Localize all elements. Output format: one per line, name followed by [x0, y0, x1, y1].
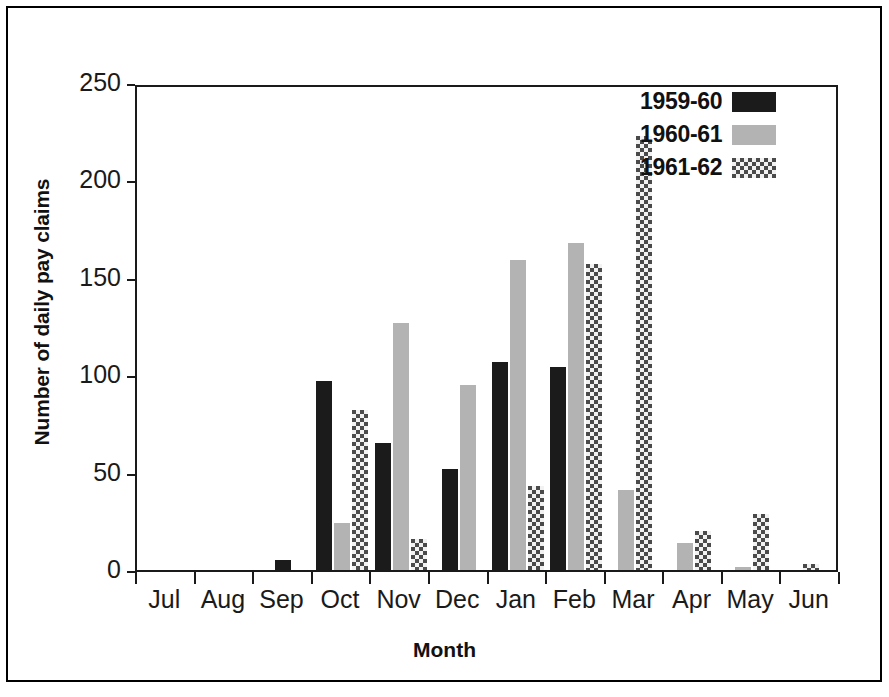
- bar: [334, 523, 350, 570]
- figure-root: Number of daily pay claims 0501001502002…: [0, 0, 889, 697]
- bar: [636, 136, 652, 570]
- y-axis-title: Number of daily pay claims: [30, 102, 54, 522]
- x-axis-tick-label: Mar: [604, 586, 662, 612]
- legend-swatch-1959-60-icon: [732, 92, 776, 112]
- y-axis-tick-label: 200: [55, 167, 121, 192]
- legend-item: 1960-61: [640, 121, 776, 148]
- bar: [316, 381, 332, 570]
- x-axis-tick: [779, 572, 781, 584]
- x-axis-tick-label: Jun: [780, 586, 838, 612]
- x-axis-tick: [545, 572, 547, 584]
- bar: [735, 567, 751, 570]
- x-axis-tick-label: Jul: [135, 586, 193, 612]
- y-axis-tick-label: 250: [55, 70, 121, 95]
- y-axis-tick: [127, 376, 135, 378]
- bar-cluster: [781, 87, 840, 570]
- bar: [677, 543, 693, 570]
- bar-cluster: [371, 87, 430, 570]
- bar: [510, 260, 526, 570]
- legend-swatch-1960-61-icon: [732, 125, 776, 145]
- y-axis-tick: [127, 571, 135, 573]
- x-axis-tick-label: Jan: [487, 586, 545, 612]
- bar-cluster: [254, 87, 313, 570]
- y-axis-tick: [127, 181, 135, 183]
- bar: [492, 362, 508, 570]
- x-axis-tick: [311, 572, 313, 584]
- bar: [375, 443, 391, 570]
- y-axis-tick: [127, 84, 135, 86]
- bar-cluster: [430, 87, 489, 570]
- x-axis-tick: [135, 572, 137, 584]
- x-axis-tick: [369, 572, 371, 584]
- legend-swatch-1961-62-icon: [732, 158, 776, 178]
- bar: [550, 367, 566, 570]
- y-axis-tick: [127, 279, 135, 281]
- bar: [695, 531, 711, 570]
- legend: 1959-60 1960-61 1961-62: [640, 88, 776, 181]
- y-axis-tick: [127, 474, 135, 476]
- x-axis-tick-label: Apr: [663, 586, 721, 612]
- y-axis-tick-label: 0: [55, 557, 121, 582]
- x-axis-tick: [721, 572, 723, 584]
- x-axis-tick: [194, 572, 196, 584]
- bar: [618, 490, 634, 570]
- x-axis-tick: [662, 572, 664, 584]
- bar: [753, 514, 769, 570]
- bar: [393, 323, 409, 570]
- bar-cluster: [547, 87, 606, 570]
- legend-label: 1961-62: [640, 154, 722, 181]
- x-axis-tick: [604, 572, 606, 584]
- x-axis-tick-label: Nov: [370, 586, 428, 612]
- legend-item: 1959-60: [640, 88, 776, 115]
- bar: [411, 539, 427, 570]
- y-axis-tick-label: 150: [55, 265, 121, 290]
- x-axis-tick: [428, 572, 430, 584]
- y-axis-tick-label: 50: [55, 460, 121, 485]
- bar: [352, 410, 368, 570]
- x-axis-tick-label: Sep: [252, 586, 310, 612]
- legend-item: 1961-62: [640, 154, 776, 181]
- legend-label: 1959-60: [640, 88, 722, 115]
- y-axis-tick-label: 100: [55, 362, 121, 387]
- x-axis-tick-label: Aug: [194, 586, 252, 612]
- bar: [275, 560, 291, 570]
- bar-cluster: [489, 87, 548, 570]
- bar: [568, 243, 584, 570]
- bar: [442, 469, 458, 570]
- x-axis-tick-label: May: [721, 586, 779, 612]
- bar: [528, 486, 544, 570]
- x-axis-tick-label: Oct: [311, 586, 369, 612]
- x-axis-tick: [838, 572, 840, 584]
- bar: [803, 564, 819, 570]
- bar-cluster: [196, 87, 255, 570]
- bar: [586, 264, 602, 570]
- bar: [460, 385, 476, 570]
- bar-cluster: [313, 87, 372, 570]
- x-axis-tick-label: Feb: [545, 586, 603, 612]
- x-axis-title: Month: [0, 638, 889, 662]
- legend-label: 1960-61: [640, 121, 722, 148]
- x-axis-tick-label: Dec: [428, 586, 486, 612]
- x-axis-tick: [487, 572, 489, 584]
- bar-cluster: [137, 87, 196, 570]
- x-axis-tick: [252, 572, 254, 584]
